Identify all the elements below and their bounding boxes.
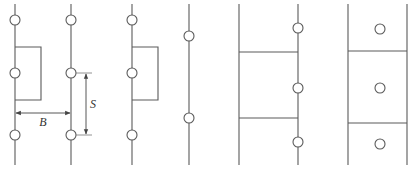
panel-2 (127, 4, 158, 165)
node-circle (127, 68, 137, 78)
node-circle (375, 24, 385, 34)
node-circle (66, 130, 76, 140)
node-circle (293, 23, 303, 33)
panel-5 (348, 4, 407, 165)
node-circle (375, 83, 385, 93)
dimension-label-s: S (90, 97, 96, 111)
node-circle (293, 137, 303, 147)
node-circle (127, 130, 137, 140)
node-circle (375, 139, 385, 149)
node-circle (184, 31, 194, 41)
dimension-label-b: B (39, 115, 47, 129)
diagram-canvas: B S (0, 0, 417, 172)
node-circle (127, 15, 137, 25)
node-circle (10, 130, 20, 140)
node-circle (293, 83, 303, 93)
diagram-layer (10, 4, 407, 165)
panel-3 (184, 4, 194, 165)
panel-1 (10, 4, 92, 165)
node-circle (10, 15, 20, 25)
panel-4 (239, 4, 303, 165)
node-circle (66, 15, 76, 25)
node-circle (10, 68, 20, 78)
node-circle (66, 68, 76, 78)
node-circle (184, 113, 194, 123)
